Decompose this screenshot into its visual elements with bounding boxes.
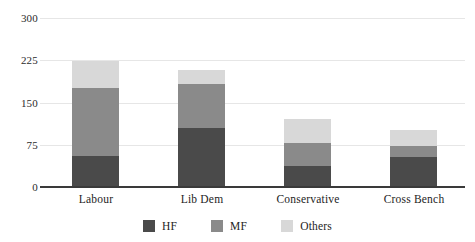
- legend-item-hf: HF: [143, 220, 177, 232]
- y-tick-label: 300: [4, 13, 38, 24]
- chart-legend: HF MF Others: [0, 216, 475, 236]
- y-tick-label: 0: [4, 182, 38, 193]
- x-axis-line: [40, 186, 465, 188]
- x-axis-labels: Labour Lib Dem Conservative Cross Bench: [40, 191, 465, 209]
- bar-segment-others: [178, 70, 225, 85]
- bar-segment-hf: [178, 128, 225, 187]
- x-tick-label-labour: Labour: [36, 191, 156, 207]
- y-tick-label: 150: [4, 98, 38, 109]
- bar-segment-mf: [72, 88, 119, 156]
- bar-segment-mf: [284, 143, 331, 166]
- x-tick-label-lib-dem: Lib Dem: [142, 191, 262, 207]
- bar-group-lib-dem: [178, 70, 225, 187]
- bar-segment-others: [72, 61, 119, 87]
- bar-segment-others: [284, 119, 331, 143]
- legend-label: Others: [300, 220, 332, 232]
- x-tick-label-conservative: Conservative: [248, 191, 368, 207]
- y-tick-label: 225: [4, 55, 38, 66]
- plot-area: [40, 18, 465, 187]
- legend-swatch-icon: [281, 220, 293, 232]
- bar-group-conservative: [284, 119, 331, 187]
- legend-item-mf: MF: [211, 220, 247, 232]
- legend-swatch-icon: [211, 220, 223, 232]
- legend-item-others: Others: [281, 220, 332, 232]
- bar-segment-hf: [72, 156, 119, 187]
- x-tick-label-cross-bench: Cross Bench: [354, 191, 474, 207]
- legend-swatch-icon: [143, 220, 155, 232]
- gridline-300: [40, 18, 465, 19]
- bar-segment-mf: [390, 146, 437, 157]
- stacked-bar-chart: 300 225 150 75 0 Labour Lib Dem Conserva…: [0, 0, 475, 242]
- bar-group-labour: [72, 61, 119, 187]
- legend-label: MF: [230, 220, 247, 232]
- y-axis-ticks: 300 225 150 75 0: [0, 0, 38, 242]
- bar-group-cross-bench: [390, 130, 437, 187]
- bar-segment-hf: [284, 166, 331, 187]
- bar-segment-others: [390, 130, 437, 147]
- y-tick-label: 75: [4, 140, 38, 151]
- legend-label: HF: [162, 220, 177, 232]
- bar-segment-hf: [390, 157, 437, 187]
- bar-segment-mf: [178, 84, 225, 127]
